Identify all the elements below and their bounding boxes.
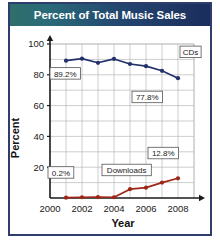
data-point-downloads — [80, 195, 84, 199]
data-point-downloads — [128, 187, 132, 191]
x-axis-title: Year — [111, 217, 135, 229]
annotation-label: 0.2% — [52, 169, 70, 178]
data-point-cds — [144, 64, 148, 68]
chart-figure: Percent of Total Music Sales 20406080100… — [0, 0, 220, 247]
annotation-callout: 12.8% — [148, 147, 179, 159]
data-point-cds — [128, 62, 132, 66]
annotation-callout: 89.2% — [50, 68, 81, 80]
page-title: Percent of Total Music Sales — [34, 9, 186, 21]
data-point-cds — [112, 57, 116, 61]
data-point-downloads — [176, 176, 180, 180]
y-axis-title: Percent — [9, 117, 21, 158]
data-point-downloads — [112, 195, 116, 199]
data-point-cds — [80, 57, 84, 61]
annotation-callout: 0.2% — [48, 167, 74, 179]
y-axis-tick-label: 60 — [33, 100, 44, 111]
annotation-callout: CDs — [180, 46, 201, 58]
y-axis-tick-labels: 20406080100 — [28, 38, 44, 172]
x-axis-arrow — [199, 195, 205, 201]
data-point-cds — [96, 61, 100, 65]
y-axis-tick-label: 80 — [33, 69, 44, 80]
chart-plot-area: 20406080100 20002002200420062008 89.2%77… — [8, 26, 212, 234]
y-axis-tick-label: 20 — [33, 162, 44, 173]
chart-title-bar: Percent of Total Music Sales — [8, 2, 212, 26]
data-point-cds — [176, 76, 180, 80]
x-axis-tick-label: 2008 — [167, 203, 188, 214]
annotation-callout: Downloads — [102, 164, 151, 176]
data-point-downloads — [160, 181, 164, 185]
series-line-cds — [66, 59, 178, 79]
annotation-label: Downloads — [107, 166, 147, 175]
data-point-downloads — [64, 196, 68, 200]
annotation-label: 89.2% — [54, 70, 77, 79]
y-axis-arrow — [47, 35, 53, 41]
data-series — [64, 57, 180, 200]
annotation-callout: 77.8% — [132, 91, 163, 103]
x-axis-tick-label: 2000 — [39, 203, 60, 214]
x-axis-tick-label: 2002 — [71, 203, 92, 214]
x-axis-tick-labels: 20002002200420062008 — [39, 203, 188, 214]
annotation-label: CDs — [183, 48, 199, 57]
data-point-downloads — [96, 195, 100, 199]
y-axis-tick-label: 100 — [28, 38, 44, 49]
data-point-downloads — [144, 186, 148, 190]
annotation-label: 77.8% — [136, 93, 159, 102]
x-axis-tick-label: 2006 — [135, 203, 156, 214]
y-axis-tick-label: 40 — [33, 131, 44, 142]
data-point-cds — [64, 59, 68, 63]
x-axis-tick-label: 2004 — [103, 203, 124, 214]
annotation-label: 12.8% — [152, 149, 175, 158]
data-point-cds — [160, 69, 164, 73]
